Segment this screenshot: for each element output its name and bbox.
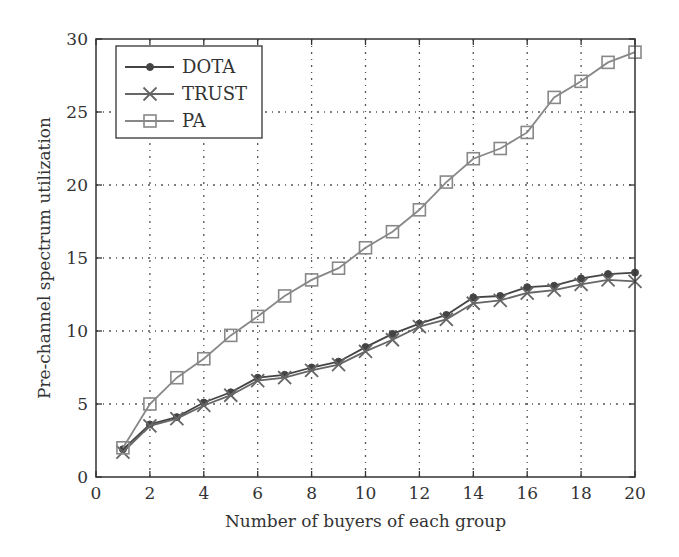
y-tick-label: 5 [77, 394, 88, 414]
x-tick-label: 0 [91, 483, 102, 503]
x-tick-label: 14 [462, 483, 484, 503]
x-tick-label: 2 [144, 483, 155, 503]
y-tick-label: 20 [66, 175, 88, 195]
series-line [123, 280, 635, 452]
line-chart: 02468101214161820051015202530 DOTATRUSTP… [0, 0, 679, 557]
x-axis-label: Number of buyers of each group [225, 511, 506, 531]
y-tick-label: 15 [66, 248, 88, 268]
y-tick-label: 30 [66, 29, 88, 49]
y-axis-label: Pre-channel spectrum utilization [34, 117, 54, 399]
y-tick-label: 25 [66, 102, 88, 122]
x-tick-label: 16 [516, 483, 538, 503]
x-tick-label: 8 [306, 483, 317, 503]
legend: DOTATRUSTPA [116, 46, 262, 138]
dot-marker [147, 64, 154, 71]
legend-label: DOTA [182, 56, 236, 77]
y-tick-label: 0 [77, 467, 88, 487]
x-tick-label: 6 [252, 483, 263, 503]
x-tick-label: 10 [355, 483, 377, 503]
series-trust [116, 273, 641, 458]
x-tick-label: 18 [570, 483, 592, 503]
y-tick-label: 10 [66, 321, 88, 341]
legend-label: PA [182, 110, 206, 131]
x-tick-label: 4 [198, 483, 209, 503]
x-tick-label: 12 [409, 483, 431, 503]
legend-label: TRUST [182, 83, 247, 104]
x-tick-label: 20 [624, 483, 646, 503]
